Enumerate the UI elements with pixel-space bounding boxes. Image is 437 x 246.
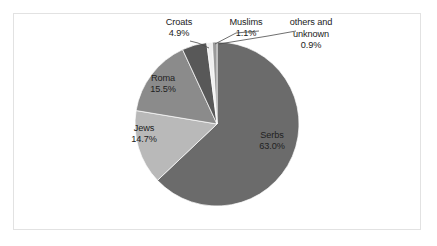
pie-label-croats-value: 4.9% [150,28,208,39]
pie-label-serbs-name: Serbs [242,130,302,141]
pie-label-serbs: Serbs 63.0% [242,130,302,153]
pie-label-croats-name: Croats [150,17,208,28]
pie-label-jews: Jews 14.7% [114,123,174,146]
pie-label-muslims-value: 1.1% [217,28,275,39]
pie-chart-plot-area: Serbs 63.0% Jews 14.7% Roma 15.5% Croats… [0,0,437,246]
pie-label-muslims-name: Muslims [217,17,275,28]
pie-label-others: others and unknown 0.9% [272,17,350,52]
pie-label-jews-value: 14.7% [114,134,174,145]
pie-label-jews-name: Jews [114,123,174,134]
pie-label-serbs-value: 63.0% [242,141,302,152]
pie-label-roma-name: Roma [133,73,193,84]
pie-label-croats: Croats 4.9% [150,17,208,40]
pie-label-roma-value: 15.5% [133,84,193,95]
pie-label-muslims: Muslims 1.1% [217,17,275,40]
pie-label-roma: Roma 15.5% [133,73,193,96]
pie-label-others-value: 0.9% [272,40,350,52]
pie-label-others-name: others and unknown [272,17,350,40]
